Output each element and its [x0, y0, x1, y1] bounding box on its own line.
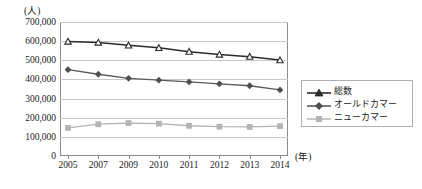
- x-axis-tick-mark: [189, 156, 190, 159]
- x-axis-tick-label: 2010: [149, 160, 168, 171]
- y-axis-tick-label: 200,000: [25, 113, 56, 123]
- data-point: [277, 123, 283, 129]
- series-layer: [60, 22, 288, 156]
- data-point: [155, 77, 162, 84]
- plot-area: 700,000600,000500,000400,000300,000200,0…: [60, 22, 288, 156]
- x-axis-tick-label: 2005: [59, 160, 78, 171]
- data-point: [65, 125, 71, 131]
- legend: 総数 オールドカマー ニューカマー: [301, 80, 413, 127]
- y-axis-tick-label: 300,000: [25, 94, 56, 104]
- x-axis-tick-label: 2012: [210, 160, 229, 171]
- x-axis-tick-label: 2014: [271, 160, 290, 171]
- legend-symbol-square-icon: [306, 111, 332, 123]
- y-axis-tick-label: 500,000: [25, 55, 56, 65]
- data-point: [65, 66, 72, 73]
- data-point: [156, 121, 162, 127]
- data-point: [126, 120, 132, 126]
- y-axis-tick-label: 400,000: [25, 74, 56, 84]
- x-axis-tick-mark: [280, 156, 281, 159]
- x-axis-tick-mark: [98, 156, 99, 159]
- y-axis-tick-label: 0: [51, 151, 56, 161]
- data-point: [277, 87, 284, 94]
- legend-symbol-diamond-icon: [306, 98, 332, 110]
- x-axis-tick-label: 2009: [119, 160, 138, 171]
- y-axis-tick-label: 700,000: [25, 17, 56, 27]
- legend-item-total: 総数: [306, 84, 408, 97]
- x-axis-tick-label: 2007: [89, 160, 108, 171]
- series-diamond: [65, 66, 284, 93]
- x-axis-tick-mark: [68, 156, 69, 159]
- data-point: [186, 79, 193, 86]
- x-axis-tick-mark: [129, 156, 130, 159]
- legend-label-newcomer: ニューカマー: [332, 111, 388, 123]
- y-axis-tick-label: 600,000: [25, 36, 56, 46]
- legend-symbol-triangle-icon: [306, 85, 332, 97]
- data-point: [216, 80, 223, 87]
- x-axis-tick-label: 2011: [180, 160, 199, 171]
- legend-item-oldcomer: オールドカマー: [306, 97, 408, 110]
- x-axis-unit-label: (年): [295, 152, 311, 163]
- x-axis-tick-label: 2013: [240, 160, 259, 171]
- data-point: [246, 82, 253, 89]
- y-axis-tick-label: 100,000: [25, 132, 56, 142]
- line-chart: (人) (年) 700,000600,000500,000400,000300,…: [0, 0, 422, 189]
- data-point: [186, 123, 192, 129]
- legend-label-total: 総数: [332, 85, 352, 97]
- legend-label-oldcomer: オールドカマー: [332, 98, 397, 110]
- series-square: [65, 120, 283, 131]
- x-axis-tick-mark: [219, 156, 220, 159]
- data-point: [95, 121, 101, 127]
- series-triangle: [65, 38, 283, 62]
- x-axis-tick-mark: [159, 156, 160, 159]
- data-point: [217, 124, 223, 130]
- data-point: [125, 75, 132, 82]
- data-point: [247, 124, 253, 130]
- data-point: [95, 71, 102, 78]
- x-axis-tick-mark: [250, 156, 251, 159]
- y-axis-unit-label: (人): [24, 6, 40, 17]
- legend-item-newcomer: ニューカマー: [306, 110, 408, 123]
